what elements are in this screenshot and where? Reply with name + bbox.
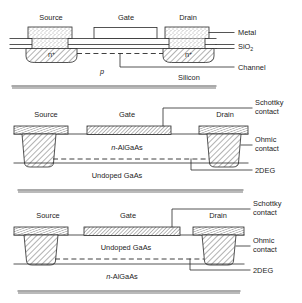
hemt-gate-schottky-bar — [87, 126, 171, 135]
mosfet-gate-label: Gate — [118, 13, 134, 22]
mosfet-source-plug — [32, 39, 68, 49]
inv-2deg-callout: 2DEG — [253, 266, 273, 275]
hemt-source-ohmic-pad — [14, 126, 68, 134]
inv-gate-schottky-bar — [84, 227, 180, 236]
mosfet-drain-plug — [169, 39, 205, 49]
hemt-schottky-callout-line2: contact — [255, 107, 279, 116]
inv-schottky-callout-line2: contact — [253, 208, 277, 217]
device-cross-section-figure: Source Gate Drain n+ n+ p — [0, 0, 302, 303]
hemt-drain-ohmic-pad — [199, 126, 248, 134]
inv-gaas-layer-label: Undoped GaAs — [101, 243, 152, 252]
inv-source-ohmic-well — [24, 235, 58, 265]
inv-ohmic-callout-line2: contact — [253, 245, 277, 254]
hemt-algaas-layer-label: n-AlGaAs — [111, 143, 143, 152]
hemt-2deg-callout: 2DEG — [255, 166, 275, 175]
inv-drain-ohmic-well — [202, 235, 236, 265]
mosfet-channel-callout: Channel — [238, 63, 266, 72]
mosfet-substrate-label: p — [99, 67, 104, 76]
hemt-schottky-callout-line1: Schottky — [255, 98, 284, 107]
inv-source-label: Source — [36, 211, 59, 220]
hemt-gaas-layer-label: Undoped GaAs — [92, 171, 143, 180]
diagram-hemt-inverted: Source Gate Drain Undoped GaAs n-AlGaAs — [14, 199, 282, 293]
inv-drain-label: Drain — [209, 211, 227, 220]
inv-ohmic-callout-line1: Ohmic — [253, 236, 275, 245]
hemt-schottky-leader — [163, 108, 252, 126]
diagram-mosfet: Source Gate Drain n+ n+ p — [10, 13, 266, 88]
inv-gate-label: Gate — [120, 211, 136, 220]
hemt-gate-label: Gate — [119, 110, 135, 119]
mosfet-drain-label: Drain — [179, 13, 197, 22]
inv-drain-ohmic-pad — [193, 227, 244, 235]
hemt-drain-label: Drain — [216, 110, 234, 119]
mosfet-gate-electrode — [94, 28, 157, 39]
hemt-source-label: Source — [34, 110, 57, 119]
inv-source-ohmic-pad — [14, 227, 68, 235]
diagram-hemt-normal: Source Gate Drain n-AlGaAs Undoped GaAs — [14, 98, 284, 192]
hemt-ohmic-callout-line2: contact — [255, 144, 279, 153]
hemt-source-ohmic-well — [22, 134, 56, 167]
mosfet-metal-callout: Metal — [238, 28, 256, 37]
mosfet-source-contact — [28, 27, 72, 39]
hemt-ohmic-callout-line1: Ohmic — [255, 135, 277, 144]
mosfet-silicon-callout: Silicon — [178, 73, 200, 82]
inv-algaas-layer-label: n-AlGaAs — [106, 272, 138, 281]
mosfet-drain-contact — [165, 27, 209, 39]
mosfet-oxide-callout: SiO2 — [238, 42, 253, 52]
figure-root: Source Gate Drain n+ n+ p — [0, 0, 302, 303]
mosfet-source-label: Source — [39, 13, 62, 22]
inv-schottky-callout-line1: Schottky — [253, 199, 282, 208]
hemt-drain-ohmic-well — [207, 134, 241, 167]
